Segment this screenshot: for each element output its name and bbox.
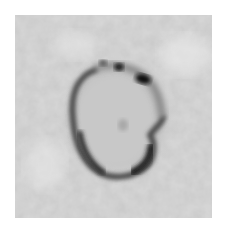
micrograph-image xyxy=(15,15,212,218)
micrograph-render xyxy=(15,15,212,218)
